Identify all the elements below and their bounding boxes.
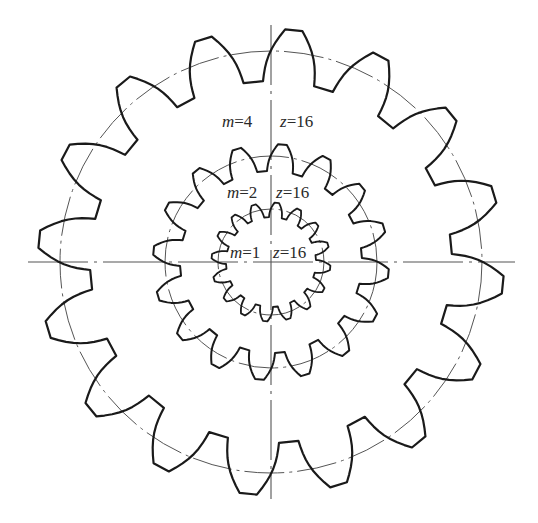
teeth-label-m4: z=16 bbox=[280, 113, 313, 130]
gear-label-m2: m=2 bbox=[227, 184, 257, 201]
teeth-label-m1: z=16 bbox=[273, 244, 306, 261]
center-lines bbox=[28, 25, 515, 499]
teeth-count-label: z=16 bbox=[273, 243, 306, 262]
module-label: m=1 bbox=[230, 243, 260, 262]
module-label: m=4 bbox=[222, 112, 252, 131]
teeth-label-m2: z=16 bbox=[276, 184, 309, 201]
gear-diagram bbox=[0, 0, 538, 523]
gear-label-m4: m=4 bbox=[222, 113, 252, 130]
module-label: m=2 bbox=[227, 183, 257, 202]
teeth-count-label: z=16 bbox=[276, 183, 309, 202]
teeth-count-label: z=16 bbox=[280, 112, 313, 131]
gear-label-m1: m=1 bbox=[230, 244, 260, 261]
